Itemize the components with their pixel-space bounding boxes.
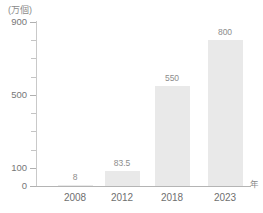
bar-value-label: 83.5: [97, 159, 147, 168]
y-axis-unit-label: (万個): [8, 3, 32, 16]
y-axis-tick-label: 0: [0, 181, 27, 191]
bar: [58, 185, 93, 186]
x-axis-unit-label: 年: [250, 180, 259, 189]
x-axis-label: 2012: [97, 192, 147, 203]
bar: [155, 86, 190, 186]
bar: [208, 40, 243, 186]
x-axis-label: 2023: [200, 192, 250, 203]
x-axis-label: 2008: [50, 192, 100, 203]
bar-value-label: 800: [200, 28, 250, 37]
x-axis-line: [36, 186, 251, 187]
y-axis-tick-label: 900: [0, 17, 27, 27]
plot-area: [36, 22, 258, 186]
bar-value-label: 8: [50, 173, 100, 182]
bar-value-label: 550: [147, 74, 197, 83]
bar-chart: (万個) 9005001000 883.5550800 200820122018…: [0, 0, 263, 213]
y-axis-tick-label: 100: [0, 163, 27, 173]
x-axis-label: 2018: [147, 192, 197, 203]
bar: [105, 171, 140, 186]
y-axis-tick: [30, 186, 36, 187]
y-axis-tick-label: 500: [0, 90, 27, 100]
